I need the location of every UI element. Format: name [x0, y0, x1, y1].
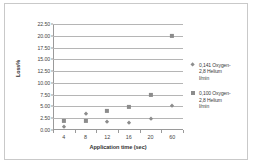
legend-item-line-3: l/min [199, 75, 247, 81]
data-point [105, 109, 109, 113]
diamond-marker-icon [190, 62, 195, 67]
gridline [53, 59, 183, 60]
data-point [62, 118, 66, 122]
y-axis-label: Loss% [15, 60, 21, 77]
x-tick-label: 8 [84, 134, 87, 140]
y-tick-label: 2.50 [40, 115, 50, 121]
y-tick-label: 12.50 [38, 68, 50, 74]
chart-figure: Loss% 0.002.505.007.5010.0012.5015.0017.… [4, 3, 248, 160]
gridline [53, 118, 183, 119]
y-tick-label: 10.00 [38, 80, 50, 86]
data-point [83, 119, 87, 123]
y-tick-mark [51, 35, 53, 36]
square-marker-icon [191, 91, 195, 95]
plot-area: 0.002.505.007.5010.0012.5015.0017.5020.0… [53, 24, 183, 130]
y-tick-label: 15.00 [38, 56, 50, 62]
x-tick-mark [53, 130, 54, 133]
chart-legend: 0,141 Oxygen- 2,8 Helium l/min 0,100 Oxy… [191, 62, 247, 118]
gridline [53, 83, 183, 84]
x-axis-label: Application time (sec) [53, 144, 183, 150]
gridline [53, 95, 183, 96]
y-tick-label: 20.00 [38, 33, 50, 39]
y-tick-mark [51, 24, 53, 25]
legend-item-line-3: l/min [199, 103, 247, 109]
y-tick-label: 5.00 [40, 103, 50, 109]
x-tick-label: 4 [62, 134, 65, 140]
y-tick-label: 17.50 [38, 45, 50, 51]
legend-item-series-2: 0,100 Oxygen- 2,8 Helium l/min [191, 90, 247, 109]
y-tick-mark [51, 71, 53, 72]
y-tick-mark [51, 59, 53, 60]
data-point [170, 34, 174, 38]
x-tick-label: 16 [126, 134, 132, 140]
y-tick-mark [51, 106, 53, 107]
x-tick-label: 12 [104, 134, 110, 140]
data-point [83, 111, 88, 116]
gridline [53, 106, 183, 107]
x-tick-mark [75, 130, 76, 133]
y-tick-mark [51, 82, 53, 83]
plot-frame [53, 24, 183, 130]
y-tick-mark [51, 94, 53, 95]
data-point [127, 105, 131, 109]
y-tick-mark [51, 47, 53, 48]
y-tick-mark [51, 118, 53, 119]
y-tick-label: 22.50 [38, 21, 50, 27]
gridline [53, 36, 183, 37]
x-tick-mark [118, 130, 119, 133]
x-tick-label: 20 [148, 134, 154, 140]
y-tick-label: 0.00 [40, 127, 50, 133]
x-tick-mark [183, 130, 184, 133]
x-tick-mark [140, 130, 141, 133]
legend-item-series-1: 0,141 Oxygen- 2,8 Helium l/min [191, 62, 247, 81]
x-tick-mark [161, 130, 162, 133]
gridline [53, 24, 183, 25]
y-tick-label: 7.50 [40, 92, 50, 98]
data-point [148, 93, 152, 97]
x-tick-label: 60 [169, 134, 175, 140]
x-tick-mark [96, 130, 97, 133]
gridline [53, 71, 183, 72]
gridline [53, 48, 183, 49]
